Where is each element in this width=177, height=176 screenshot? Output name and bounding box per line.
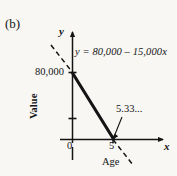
root-leader-arrowhead	[113, 133, 118, 139]
x-axis-title: Age	[102, 157, 120, 168]
equation-annotation: y = 80,000 – 15,000x	[75, 47, 167, 58]
x-tick-label-5: 5	[109, 141, 114, 152]
origin-tick-label: 0	[67, 141, 72, 152]
panel-label: (b)	[5, 17, 20, 30]
figure-panel: (b) y x y = 80,000 – 15,000x 80,000 5.33…	[0, 0, 177, 176]
x-axis-symbol-label: x	[164, 141, 170, 152]
x-root-annotation: 5.33...	[116, 104, 142, 115]
depreciation-line	[73, 73, 114, 139]
y-axis-title: Value	[27, 86, 41, 126]
y-intercept-tick-label: 80,000	[35, 67, 64, 78]
y-axis-symbol-label: y	[59, 26, 64, 37]
